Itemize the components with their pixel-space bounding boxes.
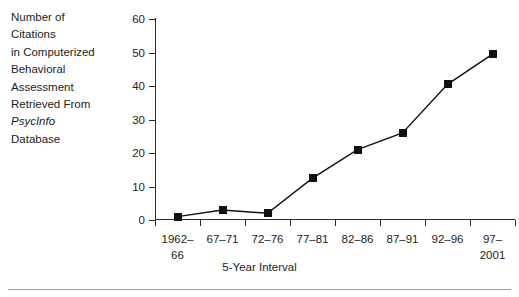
y-tick-label: 60 — [132, 11, 145, 27]
x-tick-mark — [200, 220, 201, 226]
plot-area: 0102030405060 — [155, 19, 515, 220]
x-tick-mark — [515, 220, 516, 226]
y-axis-caption-line: in Computerized — [11, 44, 133, 61]
x-tick-mark — [245, 220, 246, 226]
x-axis-label: 1962– 66 — [162, 232, 194, 263]
series-line — [155, 19, 515, 220]
y-axis-caption-line: Behavioral — [11, 61, 133, 78]
x-axis-label: 67–71 — [207, 232, 239, 248]
figure-container: Number ofCitationsin ComputerizedBehavio… — [0, 0, 519, 297]
x-tick-mark — [155, 220, 156, 226]
data-point-marker[interactable] — [354, 146, 362, 154]
data-point-marker[interactable] — [399, 129, 407, 137]
x-axis-label: 87–91 — [387, 232, 419, 248]
y-tick-label: 20 — [132, 145, 145, 161]
bottom-divider — [8, 289, 511, 290]
data-point-marker[interactable] — [309, 174, 317, 182]
data-point-marker[interactable] — [444, 80, 452, 88]
data-point-marker[interactable] — [219, 206, 227, 214]
y-axis-caption-line: Database — [11, 131, 133, 148]
y-axis-caption-line: Citations — [11, 26, 133, 43]
x-tick-mark — [470, 220, 471, 226]
y-tick-label: 10 — [132, 179, 145, 195]
x-tick-mark — [380, 220, 381, 226]
y-axis-caption-line: Number of — [11, 9, 133, 26]
x-axis-label: 92–96 — [432, 232, 464, 248]
x-axis-title: 5-Year Interval — [0, 261, 519, 273]
x-axis-label: 97– 2001 — [480, 232, 506, 263]
data-point-marker[interactable] — [264, 209, 272, 217]
x-axis-label: 77–81 — [297, 232, 329, 248]
y-axis-caption: Number ofCitationsin ComputerizedBehavio… — [11, 9, 133, 148]
y-tick-label: 0 — [139, 212, 145, 228]
data-point-marker[interactable] — [489, 50, 497, 58]
data-point-marker[interactable] — [174, 213, 182, 221]
y-tick-label: 50 — [132, 45, 145, 61]
x-tick-mark — [290, 220, 291, 226]
x-axis-label: 72–76 — [252, 232, 284, 248]
x-axis-label: 82–86 — [342, 232, 374, 248]
y-axis-caption-line: Retrieved From — [11, 96, 133, 113]
x-tick-mark — [335, 220, 336, 226]
y-axis-caption-line: Assessment — [11, 79, 133, 96]
x-tick-mark — [425, 220, 426, 226]
y-tick-label: 40 — [132, 78, 145, 94]
y-axis-caption-line: PsycInfo — [11, 113, 133, 130]
y-tick-label: 30 — [132, 112, 145, 128]
